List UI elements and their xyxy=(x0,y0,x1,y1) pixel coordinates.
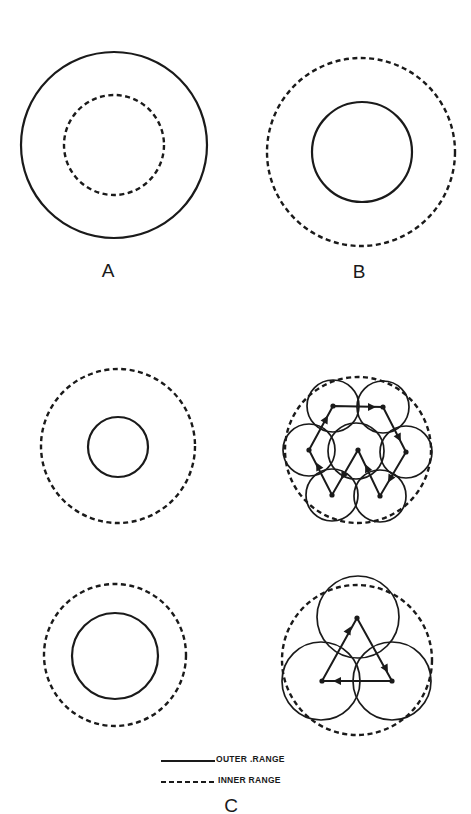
node-dot xyxy=(329,492,334,497)
node-dot xyxy=(389,678,394,683)
node-dot xyxy=(355,447,360,452)
legend-label-outer-range: OUTER .RANGE xyxy=(216,755,285,764)
arrow-up-right-icon xyxy=(321,414,332,425)
panel-label-c: C xyxy=(224,796,238,814)
legend-label-inner-range: INNER RANGE xyxy=(218,776,281,785)
panel-a xyxy=(21,52,207,238)
panel-a-inner-range-circle xyxy=(64,95,164,195)
panel-c-bottom-left-inner-range-circle xyxy=(44,584,186,726)
panel-c-bottom-right-inner-range-circle xyxy=(282,585,432,735)
node-dot xyxy=(319,678,324,683)
panel-label-a: A xyxy=(102,261,115,280)
panel-c-bottom-right xyxy=(282,576,432,735)
range-diagram xyxy=(0,0,471,814)
panel-label-b: B xyxy=(353,262,366,281)
arrow-right-icon xyxy=(368,403,376,411)
panel-c-bottom-left xyxy=(44,584,186,726)
node-dot xyxy=(403,449,408,454)
panel-a-outer-range-circle xyxy=(21,52,207,238)
node-dot xyxy=(354,615,359,620)
panel-b-outer-range-circle xyxy=(312,102,412,202)
arrow-down-left-icon xyxy=(338,471,349,482)
node-dot xyxy=(380,404,385,409)
node-dot xyxy=(330,403,335,408)
panel-b-inner-range-circle xyxy=(267,58,455,246)
panel-c-top-left xyxy=(41,369,195,523)
arrow-left-icon xyxy=(333,677,341,685)
panel-c-top-left-outer-range-circle xyxy=(88,417,148,477)
panel-c-top-right xyxy=(283,377,432,523)
panel-c-bottom-left-outer-range-circle xyxy=(72,613,158,699)
legend xyxy=(161,761,216,782)
panel-c-top-left-inner-range-circle xyxy=(41,369,195,523)
panel-b xyxy=(267,58,455,246)
arrow-down-icon xyxy=(394,433,405,444)
node-dot xyxy=(306,447,311,452)
node-dot xyxy=(377,493,382,498)
